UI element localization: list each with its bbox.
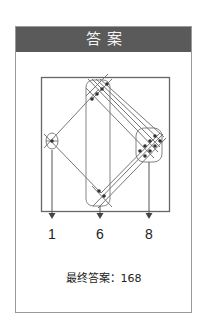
arrow-down-icon [49, 213, 56, 219]
arrow-down-icon [146, 213, 153, 219]
count-label-middle: 6 [96, 226, 104, 242]
final-answer-value: 168 [121, 272, 142, 285]
count-label-left: 1 [48, 226, 56, 242]
arrow-down-icon [97, 213, 104, 219]
final-answer: 最终答案：168 [0, 269, 207, 285]
count-label-right: 8 [145, 226, 153, 242]
final-answer-label: 最终答案： [66, 272, 121, 285]
